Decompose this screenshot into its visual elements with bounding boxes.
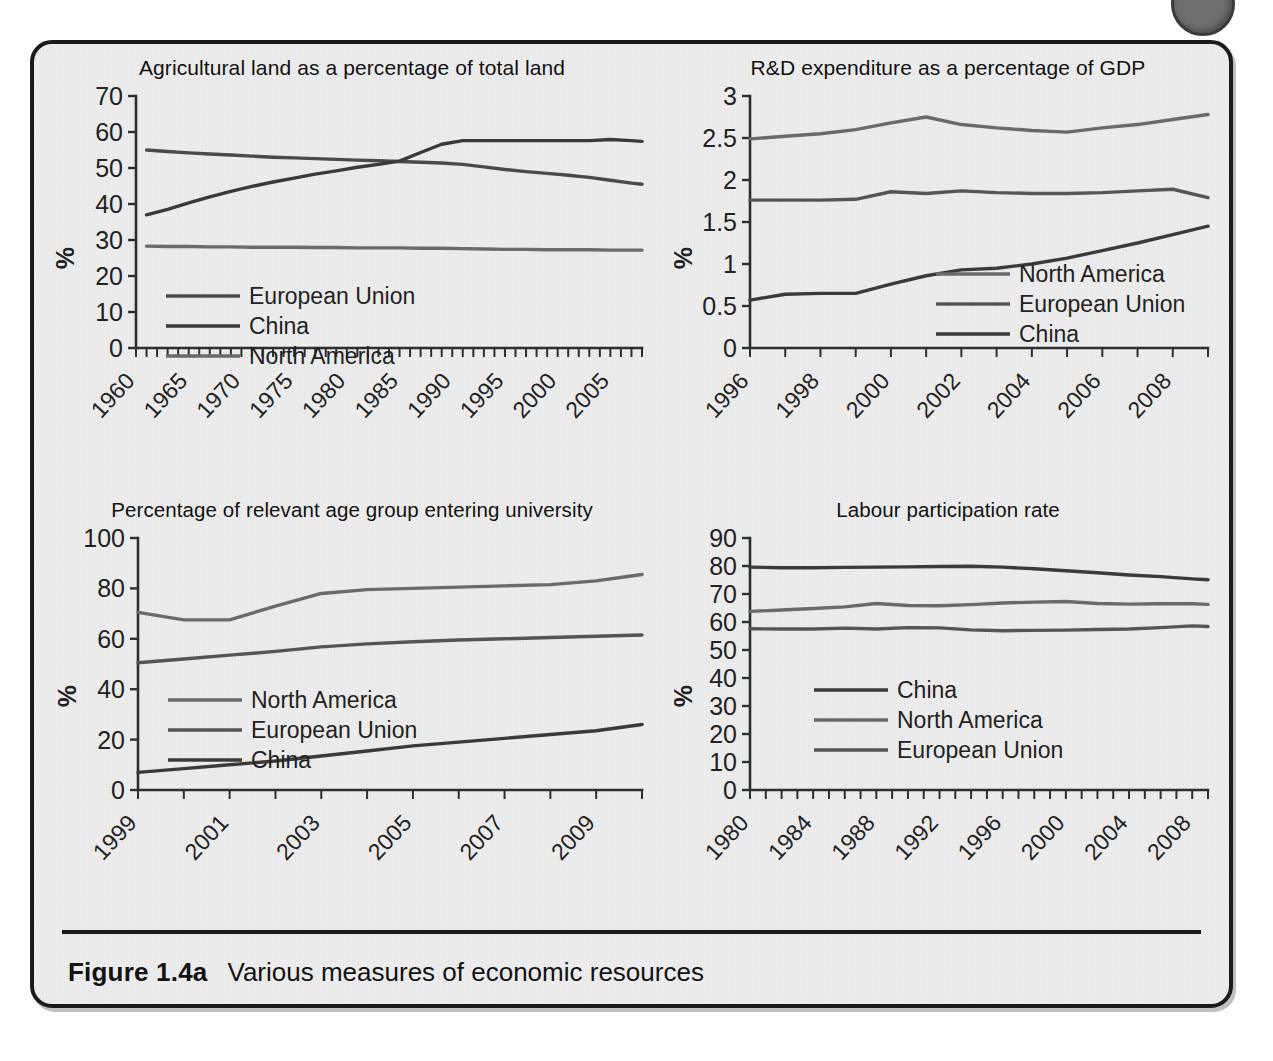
svg-text:1996: 1996	[952, 810, 1006, 865]
svg-text:China: China	[897, 677, 957, 703]
svg-text:1.5: 1.5	[702, 208, 737, 236]
svg-text:North America: North America	[897, 707, 1043, 733]
svg-text:80: 80	[709, 552, 737, 580]
svg-labour-participation: 0102030405060708090%19801984198819921996…	[674, 528, 1222, 900]
figure-caption-text: Various measures of economic resources	[227, 957, 703, 988]
charts-grid: Agricultural land as a percentage of tot…	[34, 50, 1229, 912]
chart-title-agricultural-land: Agricultural land as a percentage of tot…	[48, 56, 656, 80]
svg-text:2000: 2000	[507, 368, 561, 423]
svg-text:2006: 2006	[1052, 368, 1106, 423]
svg-text:2000: 2000	[1016, 810, 1070, 865]
svg-text:30: 30	[709, 692, 737, 720]
svg-text:1980: 1980	[700, 810, 754, 865]
svg-text:European Union: European Union	[1019, 291, 1185, 317]
svg-text:40: 40	[709, 664, 737, 692]
svg-text:2.5: 2.5	[702, 124, 737, 152]
svg-text:China: China	[249, 313, 309, 339]
svg-text:%: %	[53, 685, 81, 707]
svg-text:10: 10	[95, 298, 123, 326]
svg-rd-expenditure: 00.511.522.53%19961998200020022004200620…	[674, 86, 1222, 466]
svg-university-entry: 020406080100%199920012003200520072009Nor…	[48, 528, 656, 900]
plot-agricultural-land: 010203040506070%196019651970197519801985…	[48, 86, 656, 466]
svg-text:0: 0	[723, 776, 737, 804]
figure-number: Figure 1.4a	[68, 957, 207, 988]
svg-text:2000: 2000	[841, 368, 895, 423]
svg-text:European Union: European Union	[249, 283, 415, 309]
svg-text:60: 60	[95, 118, 123, 146]
svg-text:%: %	[51, 247, 79, 269]
svg-text:20: 20	[95, 262, 123, 290]
svg-text:2007: 2007	[454, 810, 508, 865]
svg-text:40: 40	[97, 675, 125, 703]
svg-text:1988: 1988	[826, 810, 880, 865]
svg-text:40: 40	[95, 190, 123, 218]
svg-text:0: 0	[109, 334, 123, 362]
svg-text:2002: 2002	[911, 368, 965, 423]
svg-text:1980: 1980	[297, 368, 351, 423]
svg-text:1996: 1996	[700, 368, 754, 423]
plot-university-entry: 020406080100%199920012003200520072009Nor…	[48, 528, 656, 900]
svg-text:50: 50	[709, 636, 737, 664]
svg-text:China: China	[251, 747, 311, 773]
svg-text:1965: 1965	[138, 368, 192, 423]
chart-title-labour-participation: Labour participation rate	[674, 498, 1222, 522]
svg-text:80: 80	[97, 574, 125, 602]
svg-text:2005: 2005	[363, 810, 417, 865]
chart-panel-labour-participation: Labour participation rate 01020304050607…	[674, 498, 1222, 918]
chart-panel-rd-expenditure: R&D expenditure as a percentage of GDP 0…	[674, 56, 1222, 486]
svg-text:2008: 2008	[1123, 368, 1177, 423]
svg-text:1985: 1985	[349, 368, 403, 423]
svg-text:0.5: 0.5	[702, 292, 737, 320]
svg-text:1995: 1995	[455, 368, 509, 423]
svg-text:1990: 1990	[402, 368, 456, 423]
svg-text:60: 60	[709, 608, 737, 636]
svg-text:European Union: European Union	[897, 737, 1063, 763]
svg-text:60: 60	[97, 625, 125, 653]
svg-text:90: 90	[709, 528, 737, 552]
chart-panel-university-entry: Percentage of relevant age group enterin…	[48, 498, 656, 918]
svg-text:0: 0	[723, 334, 737, 362]
svg-text:%: %	[674, 685, 697, 707]
svg-text:1: 1	[723, 250, 737, 278]
figure-box: Agricultural land as a percentage of tot…	[30, 40, 1233, 1008]
svg-text:70: 70	[95, 86, 123, 110]
chart-title-university-entry: Percentage of relevant age group enterin…	[48, 498, 656, 522]
svg-text:European Union: European Union	[251, 717, 417, 743]
svg-text:1975: 1975	[244, 368, 298, 423]
caption-divider	[62, 930, 1201, 934]
svg-text:2009: 2009	[546, 810, 600, 865]
chart-panel-agricultural-land: Agricultural land as a percentage of tot…	[48, 56, 656, 486]
svg-text:China: China	[1019, 321, 1079, 347]
svg-text:70: 70	[709, 580, 737, 608]
svg-text:1992: 1992	[889, 810, 943, 865]
svg-text:2003: 2003	[271, 810, 325, 865]
svg-text:1970: 1970	[191, 368, 245, 423]
page-number-marker	[1171, 0, 1235, 36]
svg-text:2008: 2008	[1142, 810, 1196, 865]
svg-text:1960: 1960	[86, 368, 140, 423]
svg-text:North America: North America	[1019, 261, 1165, 287]
svg-text:3: 3	[723, 86, 737, 110]
svg-text:1984: 1984	[763, 810, 817, 865]
svg-text:1998: 1998	[770, 368, 824, 423]
plot-labour-participation: 0102030405060708090%19801984198819921996…	[674, 528, 1222, 900]
svg-text:2001: 2001	[179, 810, 233, 865]
svg-text:100: 100	[83, 528, 125, 552]
svg-text:10: 10	[709, 748, 737, 776]
svg-text:North America: North America	[249, 343, 395, 369]
svg-text:30: 30	[95, 226, 123, 254]
svg-text:20: 20	[97, 726, 125, 754]
svg-text:2: 2	[723, 166, 737, 194]
plot-rd-expenditure: 00.511.522.53%19961998200020022004200620…	[674, 86, 1222, 466]
svg-text:50: 50	[95, 154, 123, 182]
svg-text:2004: 2004	[1079, 810, 1133, 865]
svg-agricultural-land: 010203040506070%196019651970197519801985…	[48, 86, 656, 466]
chart-title-rd-expenditure: R&D expenditure as a percentage of GDP	[674, 56, 1222, 80]
figure-caption: Figure 1.4a Various measures of economic…	[68, 957, 704, 988]
svg-text:1999: 1999	[88, 810, 142, 865]
svg-text:0: 0	[111, 776, 125, 804]
svg-text:20: 20	[709, 720, 737, 748]
svg-text:%: %	[674, 247, 697, 269]
svg-text:North America: North America	[251, 687, 397, 713]
svg-text:2005: 2005	[560, 368, 614, 423]
